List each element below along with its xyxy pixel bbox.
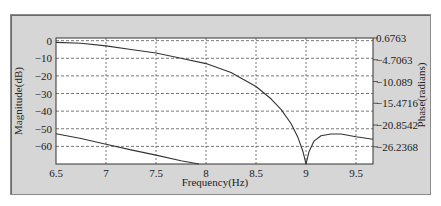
y-tick-label-right: −20.8542	[376, 119, 418, 131]
right-axis-ticks: 0.6763−4.7063−10.089−15.4716−20.8542−26.…	[373, 32, 418, 153]
x-tick-label: 7.5	[149, 167, 163, 179]
x-tick-label: 8.5	[249, 167, 263, 179]
y-tick-label-left: −30	[35, 88, 53, 100]
x-tick-label: 7	[103, 167, 109, 179]
x-tick-label: 9	[303, 167, 309, 179]
y-tick-label-left: −50	[35, 123, 53, 135]
y-tick-label-right: −26.2368	[376, 141, 418, 153]
left-axis-ticks: 0−10−20−30−40−50−60	[35, 35, 53, 153]
y-tick-label-right: −4.7063	[376, 54, 413, 66]
plot-area	[56, 38, 373, 164]
x-tick-label: 9.5	[349, 167, 363, 179]
y-tick-label-left: 0	[47, 35, 53, 47]
y-tick-label-left: −10	[35, 52, 53, 64]
y-tick-label-right: −10.089	[376, 76, 413, 88]
y-axis-label-right: Phase(radians)	[415, 62, 428, 127]
y-tick-label-left: −60	[35, 140, 53, 152]
y-tick-label-left: −20	[35, 70, 53, 82]
y-axis-label-left: Magnitude(dB)	[12, 67, 25, 135]
y-tick-label-right: 0.6763	[376, 32, 407, 44]
y-tick-label-right: −15.4716	[376, 97, 418, 109]
x-tick-label: 6.5	[49, 167, 63, 179]
x-axis-label: Frequency(Hz)	[182, 176, 249, 189]
bode-plot: 6.577.588.599.5 0−10−20−30−40−50−60 0.67…	[0, 0, 441, 206]
y-tick-label-left: −40	[35, 105, 53, 117]
